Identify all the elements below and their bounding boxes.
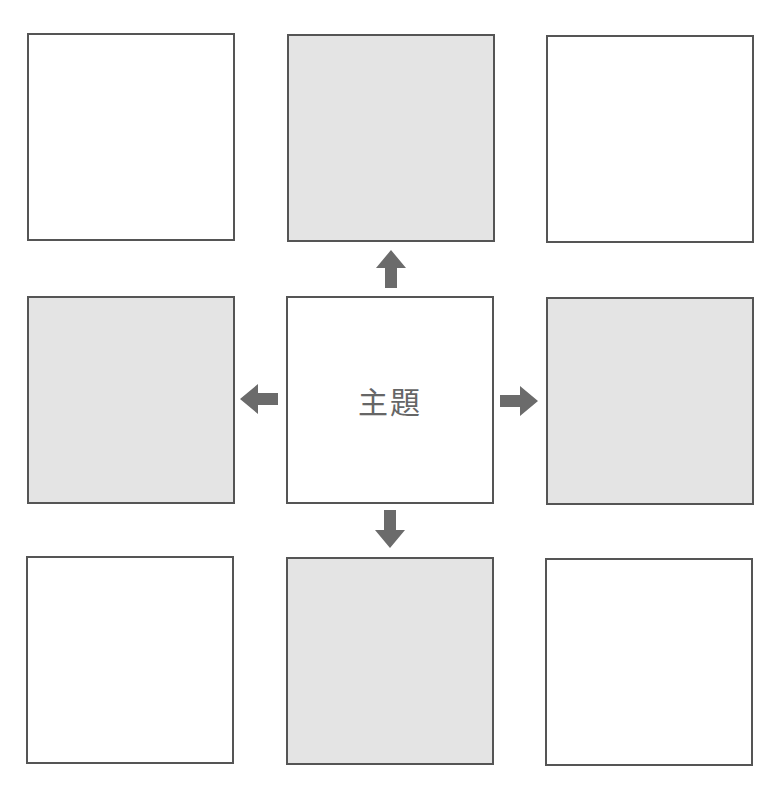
cell-top-center — [287, 34, 495, 242]
cell-bottom-right — [545, 558, 753, 766]
cell-bottom-left — [26, 556, 234, 764]
cell-middle-left — [27, 296, 235, 504]
arrow-left-icon — [240, 382, 280, 416]
center-topic-label: 主題 — [358, 378, 422, 422]
arrow-down-icon — [373, 510, 407, 550]
cell-bottom-center — [286, 557, 494, 765]
arrow-right-icon — [500, 384, 540, 418]
cell-top-left — [27, 33, 235, 241]
cell-top-right — [546, 35, 754, 243]
cell-center: 主題 — [286, 296, 494, 504]
arrow-up-icon — [374, 250, 408, 290]
cell-middle-right — [546, 297, 754, 505]
